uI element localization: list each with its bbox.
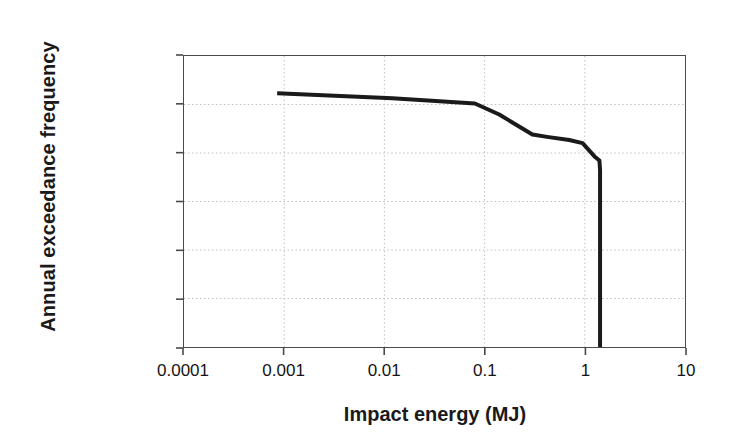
chart-figure: Annual exceedance frequency Impact energ… xyxy=(0,0,737,447)
x-axis-tick-labels: 0.00010.0010.010.1110 xyxy=(0,356,737,390)
x-tick-label: 0.0001 xyxy=(138,362,228,379)
x-tick-label: 0.001 xyxy=(239,362,329,379)
x-tick-label: 0.1 xyxy=(440,362,530,379)
plot-area xyxy=(183,55,686,348)
data-series-line xyxy=(184,56,685,347)
x-axis-title: Impact energy (MJ) xyxy=(183,403,687,426)
x-tick-label: 0.01 xyxy=(339,362,429,379)
x-tick-label: 1 xyxy=(540,362,630,379)
x-tick-label: 10 xyxy=(641,362,731,379)
